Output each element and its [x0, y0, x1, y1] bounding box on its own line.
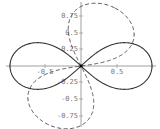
- y-tick-label: -0.25: [57, 78, 78, 86]
- y-tick-label: 0.75: [61, 12, 78, 20]
- y-tick-label: -0.5: [61, 95, 78, 103]
- y-tick-label: 0.5: [65, 29, 78, 37]
- y-tick-label: -0.75: [57, 112, 78, 120]
- origin-dot: [79, 64, 82, 67]
- chart: 0.75 0.5 0.25 -0.25 -0.5 -0.75 -0.5 0.5: [0, 0, 160, 129]
- x-tick-label: 0.5: [111, 68, 124, 76]
